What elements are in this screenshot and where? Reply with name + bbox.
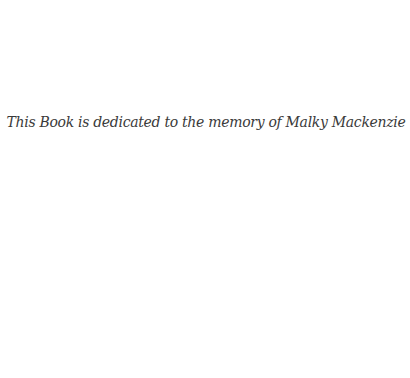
dedication-text: This Book is dedicated to the memory of … xyxy=(0,111,410,133)
